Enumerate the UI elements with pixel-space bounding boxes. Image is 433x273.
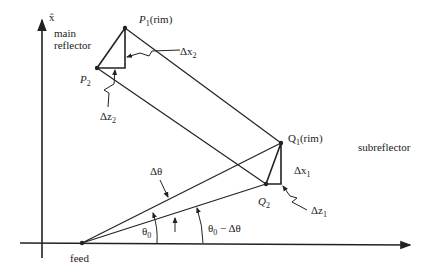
p1-label: P1(rim)	[139, 14, 172, 28]
x-axis-label: x̂	[49, 12, 55, 23]
theta0-arc	[153, 213, 157, 243]
q1-label: Q1(rim)	[288, 133, 323, 147]
delta-theta-label: Δθ	[150, 166, 162, 177]
theta0-minus-dtheta-label: θ0 − Δθ	[208, 223, 241, 237]
theta0-minus-arc	[197, 208, 203, 243]
main-reflector-triangle	[97, 28, 125, 68]
point-q1	[279, 141, 283, 145]
dz1-leader	[283, 186, 307, 210]
main-reflector-label-line2: reflector	[54, 40, 91, 51]
ray-p2-q2	[97, 68, 266, 184]
ray-feed-q1	[82, 143, 281, 243]
dx1-label: Δx1	[294, 165, 311, 179]
dx2-leader	[127, 50, 180, 57]
p2-label: P2	[80, 74, 91, 88]
feed-label: feed	[70, 253, 89, 264]
q2-label: Q2	[258, 196, 270, 210]
point-q2	[264, 182, 268, 186]
z-axis-horizontal	[20, 243, 410, 245]
point-p2	[95, 66, 99, 70]
reflector-geometry-diagram: x̂ main reflector subreflector feed P1(r…	[0, 0, 433, 273]
ray-p1-q1	[125, 28, 281, 143]
dtheta-leader	[160, 180, 168, 197]
subreflector-label: subreflector	[358, 142, 411, 153]
point-p1	[123, 26, 127, 30]
main-reflector-label-line1: main	[54, 28, 76, 39]
dz2-label: Δz2	[100, 111, 116, 125]
dz2-leader	[104, 70, 115, 107]
dz1-label: Δz1	[311, 205, 327, 219]
dx2-label: Δx2	[180, 46, 197, 60]
point-feed	[80, 241, 84, 245]
theta0-label: θ0	[142, 226, 151, 240]
